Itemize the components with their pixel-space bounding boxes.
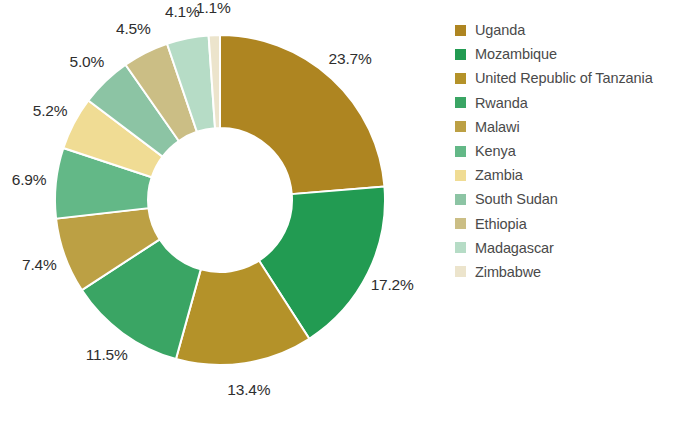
legend-item[interactable]: Zimbabwe <box>455 260 670 284</box>
slice-percentage-label: 4.5% <box>116 20 151 38</box>
legend-item[interactable]: Mozambique <box>455 42 670 66</box>
legend-color-swatch <box>455 49 466 60</box>
slice-percentage-label: 4.1% <box>165 3 200 21</box>
legend-item[interactable]: Kenya <box>455 139 670 163</box>
legend-item-label: Madagascar <box>475 240 554 256</box>
donut-slice-group <box>55 35 385 365</box>
legend-color-swatch <box>455 218 466 229</box>
slice-percentage-label: 7.4% <box>22 256 57 274</box>
legend-color-swatch <box>455 73 466 84</box>
donut-svg <box>0 0 440 423</box>
legend-color-swatch <box>455 266 466 277</box>
legend-item[interactable]: Madagascar <box>455 236 670 260</box>
legend-color-swatch <box>455 146 466 157</box>
legend-item[interactable]: South Sudan <box>455 187 670 211</box>
legend-item-label: Zambia <box>475 167 523 183</box>
legend-color-swatch <box>455 194 466 205</box>
slice-percentage-label: 5.2% <box>33 102 68 120</box>
donut-chart-figure: 23.7%17.2%13.4%11.5%7.4%6.9%5.2%5.0%4.5%… <box>0 0 676 423</box>
legend-item-label: Zimbabwe <box>475 264 541 280</box>
legend-item[interactable]: Zambia <box>455 163 670 187</box>
legend-item[interactable]: Malawi <box>455 115 670 139</box>
slice-percentage-label: 13.4% <box>227 381 270 399</box>
slice-percentage-label: 17.2% <box>371 276 414 294</box>
legend-item[interactable]: Rwanda <box>455 91 670 115</box>
legend-color-swatch <box>455 97 466 108</box>
donut-plot-area: 23.7%17.2%13.4%11.5%7.4%6.9%5.2%5.0%4.5%… <box>0 0 440 423</box>
legend-color-swatch <box>455 242 466 253</box>
legend-item-label: Kenya <box>475 143 516 159</box>
legend-item-label: United Republic of Tanzania <box>475 70 653 86</box>
legend-item[interactable]: Uganda <box>455 18 670 42</box>
legend-item-label: Mozambique <box>475 46 557 62</box>
legend-color-swatch <box>455 170 466 181</box>
slice-percentage-label: 11.5% <box>86 346 128 364</box>
legend-item-label: South Sudan <box>475 191 558 207</box>
legend-item-label: Rwanda <box>475 95 528 111</box>
legend-item[interactable]: Ethiopia <box>455 212 670 236</box>
legend-item-label: Uganda <box>475 22 525 38</box>
legend-item-label: Malawi <box>475 119 520 135</box>
slice-percentage-label: 6.9% <box>12 171 47 189</box>
legend-item[interactable]: United Republic of Tanzania <box>455 66 670 90</box>
slice-percentage-label: 23.7% <box>329 50 372 68</box>
chart-legend: UgandaMozambiqueUnited Republic of Tanza… <box>455 18 670 284</box>
legend-color-swatch <box>455 25 466 36</box>
legend-color-swatch <box>455 121 466 132</box>
slice-percentage-label: 1.1% <box>196 0 231 17</box>
slice-percentage-label: 5.0% <box>70 53 105 71</box>
legend-item-label: Ethiopia <box>475 216 527 232</box>
